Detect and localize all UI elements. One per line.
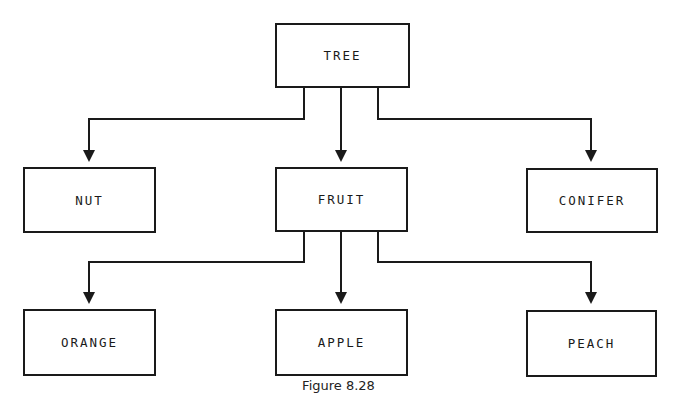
edge-fruit-orange <box>89 231 304 297</box>
edge-fruit-peach <box>378 231 591 297</box>
node-peach: PEACH <box>526 310 657 377</box>
arrowhead-icon <box>335 292 347 304</box>
node-label: APPLE <box>318 335 366 350</box>
arrowhead-icon <box>335 150 347 162</box>
arrowhead-icon <box>585 150 597 162</box>
edge-tree-nut <box>89 87 304 155</box>
node-nut: NUT <box>23 167 156 233</box>
node-label: ORANGE <box>61 335 118 350</box>
node-label: NUT <box>75 193 104 208</box>
node-fruit: FRUIT <box>275 167 408 232</box>
figure-caption: Figure 8.28 <box>0 378 677 393</box>
arrowhead-icon <box>83 292 95 304</box>
node-label: PEACH <box>568 336 616 351</box>
edge-tree-conifer <box>378 87 591 155</box>
node-label: TREE <box>323 48 361 63</box>
node-tree: TREE <box>275 23 410 88</box>
arrowhead-icon <box>83 150 95 162</box>
tree-diagram: MODULES AND STRUCTURE TREES 321 <box>0 0 677 414</box>
node-apple: APPLE <box>275 309 408 376</box>
arrowhead-icon <box>585 292 597 304</box>
node-label: CONIFER <box>559 193 626 208</box>
node-label: FRUIT <box>318 192 366 207</box>
node-orange: ORANGE <box>23 309 156 376</box>
node-conifer: CONIFER <box>526 168 658 233</box>
